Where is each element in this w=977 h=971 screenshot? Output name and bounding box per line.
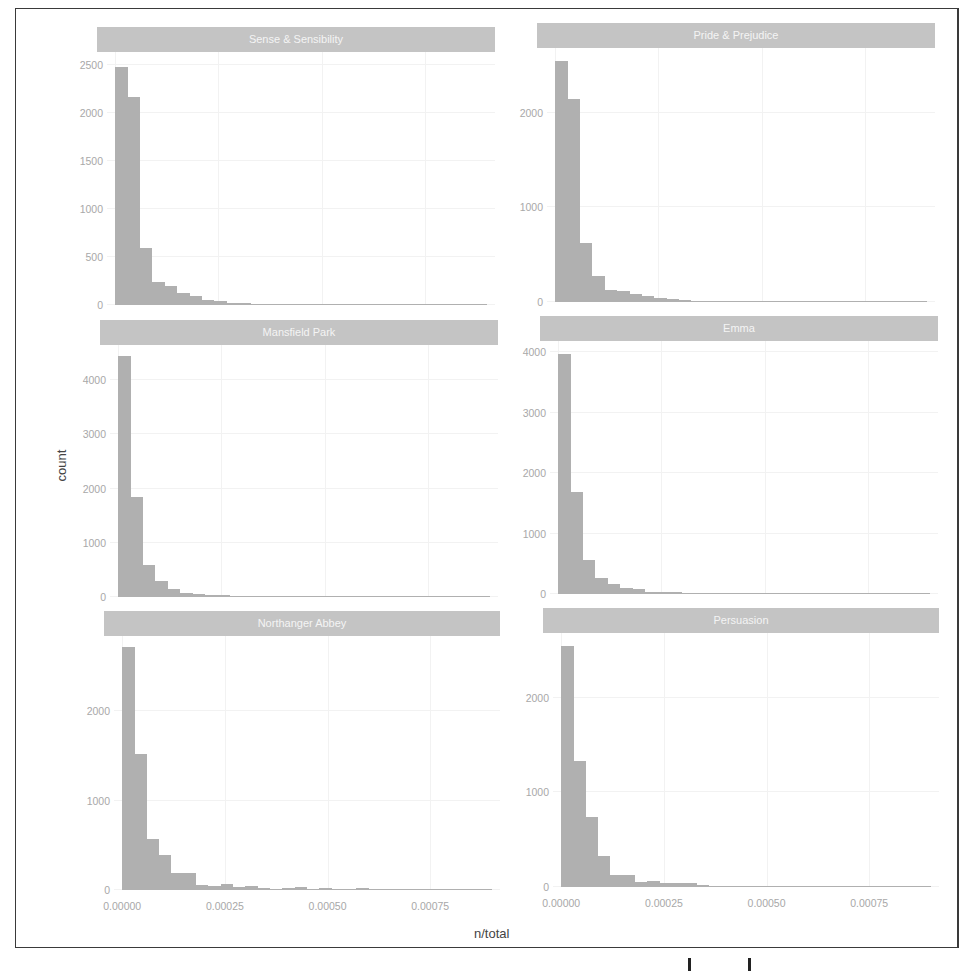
gridline-horizontal: [550, 472, 938, 473]
histogram-bar: [721, 886, 733, 887]
histogram-bar: [574, 761, 586, 887]
histogram-bar: [159, 855, 171, 890]
histogram-bar: [338, 304, 350, 305]
histogram-bar: [406, 889, 418, 890]
histogram-bar: [356, 888, 368, 890]
x-tick-label: 0.00075: [834, 897, 904, 909]
histogram-bar: [831, 593, 843, 594]
y-axis-title: count: [54, 441, 69, 491]
histogram-bar: [230, 596, 242, 597]
histogram-bar: [190, 296, 202, 305]
histogram-bar: [270, 889, 282, 890]
histogram-bar: [857, 886, 869, 887]
histogram-bar: [391, 596, 403, 597]
histogram-bar: [344, 889, 356, 890]
histogram-bar: [635, 882, 647, 887]
gridline-vertical: [225, 636, 226, 890]
histogram-bar: [803, 301, 815, 302]
histogram-bar: [561, 646, 573, 887]
plot-area: 0100020000.000000.000250.000500.00075: [114, 636, 500, 890]
histogram-bar: [832, 886, 844, 887]
facet-panel: Pride & Prejudice010002000: [537, 23, 935, 302]
facet-panel: Emma01000200030004000: [540, 316, 938, 594]
histogram-bar: [180, 593, 192, 597]
gridline-horizontal: [547, 206, 935, 207]
gridline-horizontal: [107, 160, 495, 161]
histogram-bar: [135, 754, 147, 890]
y-tick-label: 0: [503, 296, 543, 308]
y-tick-label: 2000: [70, 705, 110, 717]
histogram-bar: [279, 596, 291, 597]
histogram-bar: [843, 593, 855, 594]
y-tick-label: 2000: [506, 467, 546, 479]
x-tick-label: 0.00025: [629, 897, 699, 909]
histogram-bar: [319, 888, 331, 890]
histogram-bar: [778, 301, 790, 302]
histogram-bar: [227, 303, 239, 305]
histogram-bar: [301, 304, 313, 305]
plot-area: 01000200030004000: [550, 341, 938, 594]
facet-strip-label: Persuasion: [543, 608, 939, 633]
histogram-bar: [880, 593, 892, 594]
y-tick-label: 1000: [509, 786, 549, 798]
histogram-bar: [428, 596, 440, 597]
histogram-bar: [855, 593, 867, 594]
histogram-bar: [363, 304, 375, 305]
histogram-bar: [171, 873, 183, 890]
gridline-horizontal: [550, 412, 938, 413]
histogram-bar: [598, 856, 610, 887]
histogram-bar: [193, 594, 205, 597]
gridline-horizontal: [114, 800, 500, 801]
gridline-vertical: [328, 636, 329, 890]
histogram-bar: [351, 304, 363, 305]
histogram-bar: [571, 492, 583, 594]
y-tick-label: 1000: [66, 537, 106, 549]
y-tick-label: 2000: [66, 483, 106, 495]
histogram-bar: [894, 886, 906, 887]
histogram-bar: [630, 294, 642, 303]
gridline-horizontal: [107, 208, 495, 209]
histogram-bar: [443, 889, 455, 890]
histogram-bar: [766, 301, 778, 302]
histogram-bar: [415, 596, 427, 597]
histogram-bar: [902, 301, 914, 302]
histogram-bar: [388, 304, 400, 305]
histogram-bar: [679, 300, 691, 302]
histogram-bar: [177, 293, 189, 305]
y-tick-label: 4000: [66, 374, 106, 386]
histogram-bar: [341, 596, 353, 597]
histogram-bar: [329, 596, 341, 597]
y-tick-label: 3000: [506, 407, 546, 419]
histogram-bar: [568, 99, 580, 302]
histogram-bar: [205, 595, 217, 597]
gridline-horizontal: [107, 112, 495, 113]
histogram-bar: [465, 596, 477, 597]
histogram-bar: [694, 593, 706, 594]
histogram-bar: [758, 886, 770, 887]
histogram-bar: [295, 887, 307, 890]
histogram-bar: [304, 596, 316, 597]
histogram-bar: [184, 873, 196, 890]
histogram-bar: [453, 596, 465, 597]
facet-strip-label: Emma: [540, 316, 938, 341]
histogram-bar: [771, 886, 783, 887]
gridline-vertical: [661, 341, 662, 594]
plot-area: 010002000: [547, 48, 935, 302]
histogram-bar: [716, 301, 728, 302]
histogram-bar: [868, 593, 880, 594]
histogram-bar: [869, 886, 881, 887]
histogram-bar: [239, 303, 251, 305]
y-tick-label: 0: [506, 588, 546, 600]
histogram-bar: [818, 593, 830, 594]
histogram-bar: [794, 593, 806, 594]
histogram-bar: [168, 589, 180, 597]
histogram-bar: [583, 560, 595, 594]
histogram-bar: [254, 596, 266, 597]
histogram-bar: [707, 593, 719, 594]
histogram-bar: [709, 886, 721, 887]
histogram-bar: [617, 291, 629, 302]
histogram-bar: [558, 354, 570, 594]
histogram-bar: [654, 298, 666, 302]
histogram-bar: [313, 304, 325, 305]
histogram-bar: [440, 596, 452, 597]
